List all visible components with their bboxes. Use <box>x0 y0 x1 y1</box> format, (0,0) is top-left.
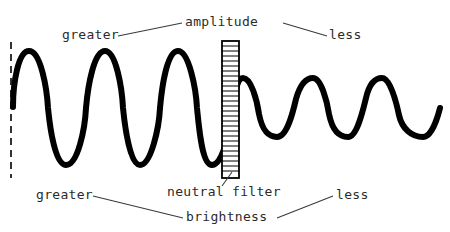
leader-amplitude-to-less <box>283 23 327 36</box>
label-greater-brightness: greater <box>36 188 93 201</box>
neutral-filter-bar <box>222 41 239 178</box>
label-amplitude: amplitude <box>185 15 258 28</box>
leader-brightness-to-greater <box>93 196 183 218</box>
amplitude-brightness-diagram: amplitude greater less neutral filter gr… <box>0 0 450 232</box>
leader-brightness-to-less <box>277 196 333 218</box>
label-less-brightness: less <box>336 188 369 201</box>
leader-amplitude-to-greater <box>118 23 182 36</box>
label-neutral-filter: neutral filter <box>167 185 281 198</box>
label-brightness: brightness <box>186 210 267 223</box>
label-less-amplitude: less <box>329 28 362 41</box>
label-greater-amplitude: greater <box>62 28 119 41</box>
